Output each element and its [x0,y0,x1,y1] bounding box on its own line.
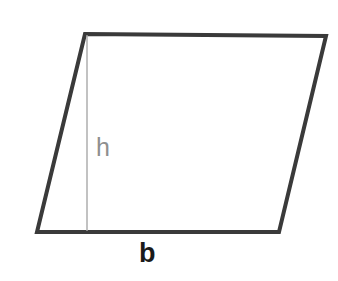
parallelogram-diagram [0,0,338,281]
parallelogram-outline [37,34,326,232]
height-label: h [96,135,110,160]
parallelogram-figure-page: { "figure": { "name": "parallelogram-wit… [0,0,338,281]
base-label: b [139,240,156,267]
